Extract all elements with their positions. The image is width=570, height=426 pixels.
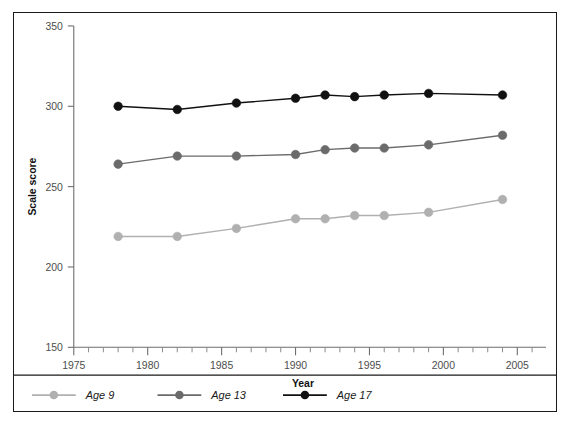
data-point-marker xyxy=(114,232,123,241)
data-point-marker xyxy=(321,214,330,223)
series-age-13 xyxy=(114,131,507,168)
series-line xyxy=(118,199,502,236)
data-point-marker xyxy=(350,92,359,101)
y-tick-label: 350 xyxy=(45,21,63,32)
data-point-marker xyxy=(380,211,389,220)
data-point-marker xyxy=(173,232,182,241)
x-tick-label: 1975 xyxy=(62,360,85,371)
data-point-marker xyxy=(498,131,507,140)
legend-item-age-17[interactable]: Age 17 xyxy=(283,389,372,401)
data-point-marker xyxy=(321,91,330,100)
legend-marker-swatch xyxy=(175,391,184,400)
data-point-marker xyxy=(424,89,433,98)
x-tick-label: 1990 xyxy=(284,360,307,371)
data-point-marker xyxy=(380,144,389,153)
data-point-marker xyxy=(424,141,433,150)
legend-label: Age 13 xyxy=(210,389,246,401)
y-tick-label: 150 xyxy=(45,342,63,353)
x-axis-title: Year xyxy=(292,378,314,389)
x-tick-label: 2005 xyxy=(506,360,529,371)
data-point-marker xyxy=(173,105,182,114)
plot-layer: 1502002503003501975198019851990199520002… xyxy=(14,21,556,401)
data-point-marker xyxy=(350,144,359,153)
x-tick-label: 1985 xyxy=(210,360,233,371)
data-point-marker xyxy=(424,208,433,217)
x-tick-label: 1995 xyxy=(358,360,381,371)
series-age-17 xyxy=(114,89,507,114)
x-tick-label: 2000 xyxy=(432,360,455,371)
line-chart: 1502002503003501975198019851990199520002… xyxy=(14,13,556,411)
data-point-marker xyxy=(114,160,123,169)
x-tick-label: 1980 xyxy=(136,360,159,371)
chart-figure-frame: 1502002503003501975198019851990199520002… xyxy=(13,12,557,412)
y-tick-label: 250 xyxy=(45,182,63,193)
data-point-marker xyxy=(232,152,241,161)
y-tick-label: 200 xyxy=(45,262,63,273)
data-point-marker xyxy=(498,195,507,204)
y-tick-label: 300 xyxy=(45,101,63,112)
data-point-marker xyxy=(173,152,182,161)
legend-marker-swatch xyxy=(50,391,59,400)
data-point-marker xyxy=(321,145,330,154)
data-point-marker xyxy=(232,224,241,233)
data-point-marker xyxy=(291,94,300,103)
data-point-marker xyxy=(114,102,123,111)
data-point-marker xyxy=(291,214,300,223)
legend-item-age-13[interactable]: Age 13 xyxy=(157,389,245,401)
series-age-9 xyxy=(114,195,507,241)
legend-item-age-9[interactable]: Age 9 xyxy=(32,389,114,401)
y-axis-title: Scale score xyxy=(27,157,38,215)
data-point-marker xyxy=(350,211,359,220)
data-point-marker xyxy=(291,150,300,159)
data-point-marker xyxy=(380,91,389,100)
legend-marker-swatch xyxy=(301,391,310,400)
legend-label: Age 17 xyxy=(336,389,373,401)
data-point-marker xyxy=(498,91,507,100)
data-point-marker xyxy=(232,99,241,108)
legend-label: Age 9 xyxy=(85,389,115,401)
